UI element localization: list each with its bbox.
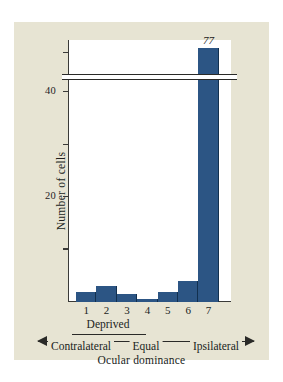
figure-panel: Number of cells 20 40 77 [14,22,269,360]
arrow-right-icon [245,336,255,346]
plot-inner: 20 40 77 [68,40,231,302]
dominance-label-equal: Equal [130,340,163,352]
x-tick-label-4: 4 [145,304,151,316]
plot-area: 20 40 77 [68,40,231,302]
bar-category-7 [198,48,218,302]
y-tick-top [63,52,68,53]
y-tick-label-20: 20 [45,190,56,201]
y-tick-20: 20 [63,196,68,197]
dominance-label-ipsilateral: Ipsilateral [190,340,242,352]
bar-value-label-7: 77 [203,34,214,46]
bar-category-3 [117,294,137,302]
y-tick-30 [63,144,68,145]
x-tick-label-2: 2 [104,304,110,316]
dominance-axis: Contralateral Equal Ipsilateral [38,334,254,350]
bar-category-4 [137,299,157,302]
y-tick-label-40: 40 [45,85,56,96]
x-tick-label-1: 1 [83,304,89,316]
x-tick-label-6: 6 [185,304,191,316]
x-axis-title: Ocular dominance [14,354,269,366]
arrow-left-icon [37,336,47,346]
dominance-label-contralateral: Contralateral [48,340,114,352]
y-axis-title: Number of cells [55,152,67,231]
bar-category-5 [158,292,178,302]
x-tick-label-3: 3 [124,304,130,316]
x-tick-label-7: 7 [206,304,212,316]
axis-break-marker [62,74,237,80]
x-tick-label-5: 5 [165,304,171,316]
bar-category-6 [178,281,198,302]
y-tick-10 [63,248,68,249]
y-tick-40: 40 [63,91,68,92]
bar-category-1 [76,292,96,302]
bar-category-2 [96,286,116,302]
deprived-label: Deprived [68,318,148,330]
x-tick-labels: 1 2 3 4 5 6 7 [68,304,231,319]
